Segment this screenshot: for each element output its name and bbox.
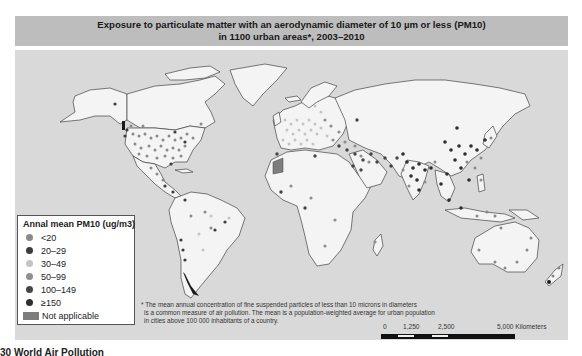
dot-icon [26,234,33,241]
south-america [169,192,245,298]
map-title-line1: Exposure to particulate matter with an a… [97,19,485,31]
legend-title: Annal mean PM10 (ug/m3) [23,219,129,229]
scale-label-2500: 2,500 [438,323,455,330]
dot-icon [26,247,33,254]
legend-label: 50–99 [41,272,66,282]
dot-icon [26,273,33,280]
alaska [60,88,127,124]
legend-label: 30–49 [41,259,66,269]
land-masses [60,64,563,298]
legend-item-lt20: <20 [23,231,129,244]
scale-bar: 0 1,250 2,500 5,000 Kilometers [381,323,566,340]
india [401,160,429,200]
australia [471,222,539,272]
map-title-banner: Exposure to particulate matter with an a… [15,16,568,46]
legend-item-50-99: 50–99 [23,270,129,283]
legend-item-30-49: 30–49 [23,257,129,270]
legend-label: ≥150 [41,298,61,308]
legend-label: 100–149 [41,285,76,295]
dot-icon [26,286,33,293]
legend-label: <20 [41,233,56,243]
philippines [477,174,485,192]
legend-item-100-149: 100–149 [23,283,129,296]
canada [127,76,225,130]
page-caption: 30 World Air Pollution [0,347,582,356]
madagascar [373,234,383,256]
dot-icon [26,260,33,267]
legend-label: Not applicable [42,311,99,321]
iceland [285,96,301,102]
map-title-line2: in 1100 urban areas*, 2003–2010 [218,31,364,43]
footnote-line2: is a common measure of air pollution. Th… [141,309,471,317]
scale-label-0: 0 [383,323,387,330]
greenland [230,64,287,106]
cuba [175,169,193,173]
scale-label-5000: 5,000 Kilometers [497,323,546,330]
legend-item-20-29: 20–29 [23,244,129,257]
world-map: Annal mean PM10 (ug/m3) <20 20–29 30–49 … [15,50,568,340]
swatch-icon [23,312,39,320]
legend: Annal mean PM10 (ug/m3) <20 20–29 30–49 … [17,215,135,325]
footnote: * The mean annual concentration of fine … [141,301,471,325]
legend-item-not-applicable: Not applicable [23,309,129,322]
indonesia [445,208,515,222]
footnote-line1: * The mean annual concentration of fine … [141,301,471,309]
dot-icon [26,299,33,306]
legend-label: 20–29 [41,246,66,256]
scale-bar-graphic [381,334,515,339]
legend-item-gte150: ≥150 [23,296,129,309]
scale-label-1250: 1,250 [403,323,420,330]
